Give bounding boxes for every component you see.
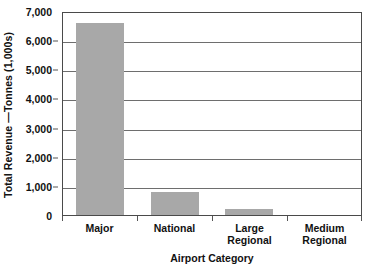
x-axis-tickmark [137, 216, 138, 221]
x-axis-tickmark [212, 216, 213, 221]
bar-slot [212, 13, 287, 215]
x-axis-category-label: Major [62, 222, 137, 246]
x-axis-category-label-line: Regional [212, 234, 287, 246]
plot-area [62, 12, 362, 216]
y-axis-tick-label: 7,000 [26, 6, 52, 18]
y-axis-tick-label: 0 [46, 210, 52, 222]
y-axis-tick-label: 4,000 [26, 93, 52, 105]
x-axis-category-label: MediumRegional [287, 222, 362, 246]
x-axis-tickmark [62, 216, 63, 221]
y-axis-tickmark [53, 99, 58, 100]
y-axis-tickmark [53, 70, 58, 71]
x-axis-tickmark [287, 216, 288, 221]
y-axis-title-text: Total Revenue —Tonnes (1,000s) [2, 32, 14, 198]
bar-slot [287, 13, 362, 215]
x-axis-category-label-line: National [137, 222, 212, 234]
x-axis-title: Airport Category [62, 252, 362, 264]
y-axis-tickmark [53, 157, 58, 158]
bar-chart: Total Revenue —Tonnes (1,000s) 01,0002,0… [0, 0, 385, 274]
x-axis-category-label-line: Regional [287, 234, 362, 246]
y-axis-tickmark [53, 128, 58, 129]
y-axis-title: Total Revenue —Tonnes (1,000s) [0, 0, 16, 230]
bar [76, 23, 124, 215]
x-axis-category-label-line: Major [62, 222, 137, 234]
y-axis-tickmark [53, 186, 58, 187]
x-axis-category-label-line: Medium [287, 222, 362, 234]
bar-slot [63, 13, 138, 215]
bar [225, 209, 273, 215]
x-axis-category-label: National [137, 222, 212, 246]
y-axis-tick-label: 1,000 [26, 181, 52, 193]
y-axis-tick-label: 5,000 [26, 64, 52, 76]
x-axis-tickmark [361, 216, 362, 221]
x-axis-category-labels: MajorNationalLargeRegionalMediumRegional [62, 222, 362, 246]
y-axis-tick-label: 6,000 [26, 35, 52, 47]
x-axis-category-label-line: Large [212, 222, 287, 234]
y-axis-tickmark [53, 41, 58, 42]
x-axis-category-label: LargeRegional [212, 222, 287, 246]
y-axis-tick-label: 3,000 [26, 123, 52, 135]
bar [151, 192, 199, 215]
y-axis-tick-label: 2,000 [26, 152, 52, 164]
bar-slot [138, 13, 213, 215]
y-axis-tick-labels: 01,0002,0003,0004,0005,0006,0007,000 [16, 12, 58, 216]
bars-group [63, 13, 361, 215]
